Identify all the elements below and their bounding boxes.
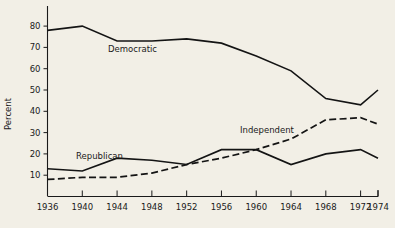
line-chart: 1020304050607080 Percent 193619401944194…: [0, 0, 395, 228]
x-tick-label: 1948: [141, 202, 163, 212]
y-axis-title: Percent: [3, 97, 13, 130]
x-tick-label: 1964: [280, 202, 302, 212]
y-tick-label: 40: [30, 106, 41, 116]
x-tick-label: 1974: [367, 202, 389, 212]
x-tick-label: 1956: [211, 202, 233, 212]
series-label-republican: Republican: [76, 151, 123, 161]
x-tick-label: 1944: [106, 202, 128, 212]
x-tick-label-group: 1936194019441948195219561960196419681972…: [37, 202, 389, 212]
x-tick-label: 1960: [245, 202, 267, 212]
y-tick-label: 80: [30, 21, 41, 31]
plot-background: [0, 0, 395, 228]
y-tick-label: 30: [30, 128, 41, 138]
y-tick-label: 50: [30, 85, 41, 95]
series-label-democratic: Democratic: [108, 44, 157, 54]
y-tick-label: 60: [30, 64, 41, 74]
x-tick-label: 1952: [176, 202, 198, 212]
y-tick-label: 70: [30, 42, 41, 52]
x-tick-label: 1968: [315, 202, 337, 212]
series-label-independent: Independent: [240, 125, 295, 135]
chart-canvas: 1020304050607080 Percent 193619401944194…: [0, 0, 395, 228]
x-tick-label: 1936: [37, 202, 59, 212]
y-tick-label: 20: [30, 149, 41, 159]
y-tick-label: 10: [30, 170, 41, 180]
x-tick-label: 1940: [71, 202, 93, 212]
